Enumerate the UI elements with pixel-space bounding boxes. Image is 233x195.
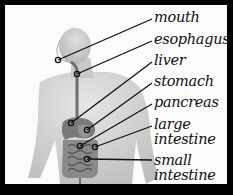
label-large-intestine-line2: intestine xyxy=(154,132,216,147)
head-silhouette xyxy=(59,28,91,64)
diagram-frame: mouth esophagus liver stomach pancreas l… xyxy=(5,5,227,184)
label-small-intestine-line1: small xyxy=(154,153,192,168)
label-stomach: stomach xyxy=(154,74,214,89)
label-pancreas: pancreas xyxy=(154,95,219,110)
label-esophagus: esophagus xyxy=(154,32,227,47)
label-liver: liver xyxy=(154,53,185,68)
label-mouth: mouth xyxy=(154,10,199,25)
label-small-intestine-line2: intestine xyxy=(154,168,216,183)
label-large-intestine-line1: large xyxy=(154,117,191,132)
